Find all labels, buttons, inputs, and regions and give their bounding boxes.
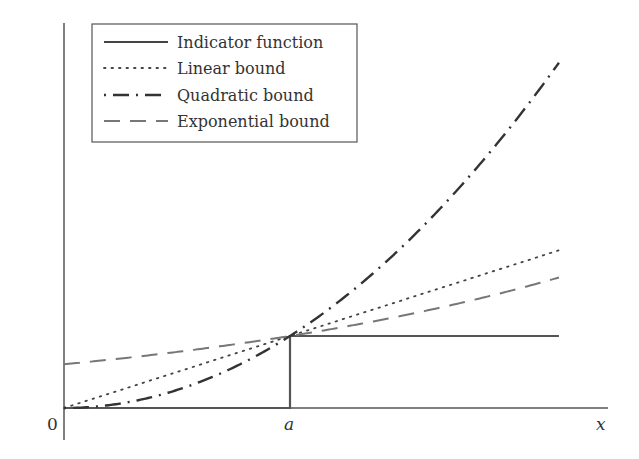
origin-label: 0 xyxy=(47,414,58,434)
legend-label-quadratic: Quadratic bound xyxy=(177,86,314,105)
legend-label-exponential: Exponential bound xyxy=(177,112,330,131)
series-linear-bound xyxy=(64,250,559,408)
x-axis-label: x xyxy=(596,414,606,434)
chart: 0 a x Indicator function Linear bound Qu… xyxy=(0,0,639,459)
a-label: a xyxy=(284,414,294,434)
legend-label-linear: Linear bound xyxy=(177,59,286,78)
legend: Indicator function Linear bound Quadrati… xyxy=(92,24,357,142)
legend-label-indicator: Indicator function xyxy=(177,33,323,52)
series-indicator-function xyxy=(64,336,559,408)
